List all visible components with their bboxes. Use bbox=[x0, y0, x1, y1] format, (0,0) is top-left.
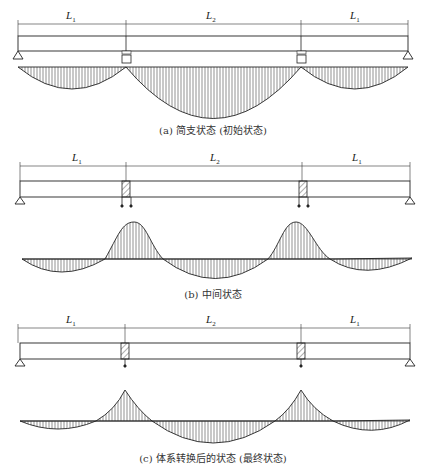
wet-joint-icon bbox=[299, 181, 307, 197]
span-label-l2: L2 bbox=[206, 313, 216, 328]
temporary-support-icon bbox=[122, 55, 131, 63]
pin-support-icon bbox=[13, 51, 23, 59]
panel-a bbox=[13, 20, 413, 119]
caption-b: (b) 中间状态 bbox=[0, 286, 426, 301]
pin-support-icon bbox=[15, 359, 25, 366]
panel-b bbox=[15, 162, 415, 279]
span-label-l1: L1 bbox=[66, 9, 76, 24]
caption-c: (c) 体系转换后的状态 (最终状态) bbox=[0, 450, 426, 465]
beam bbox=[18, 36, 408, 51]
pin-support-icon bbox=[405, 197, 415, 204]
wet-joint-icon bbox=[121, 343, 129, 359]
temporary-support-icon bbox=[297, 55, 306, 63]
bearing-icon bbox=[121, 197, 309, 207]
beam bbox=[20, 343, 410, 359]
caption-a: (a) 简支状态 (初始状态) bbox=[0, 122, 426, 137]
span-label-l2: L2 bbox=[210, 151, 220, 166]
pin-support-icon bbox=[405, 359, 415, 366]
span-label-l1: L1 bbox=[66, 313, 76, 328]
bearing-icon bbox=[124, 359, 302, 367]
span-label-l1: L1 bbox=[352, 151, 362, 166]
moment-diagram-c bbox=[20, 390, 410, 443]
span-label-l1: L1 bbox=[72, 151, 82, 166]
pin-support-icon bbox=[403, 51, 413, 59]
span-label-l1: L1 bbox=[350, 9, 360, 24]
beam bbox=[20, 181, 410, 197]
moment-diagram-a bbox=[18, 67, 408, 119]
pin-support-icon bbox=[15, 197, 25, 204]
wet-joint-icon bbox=[122, 181, 130, 197]
wet-joint-icon bbox=[297, 343, 305, 359]
panel-c bbox=[15, 324, 415, 443]
span-label-l2: L2 bbox=[206, 9, 216, 24]
span-label-l1: L1 bbox=[350, 313, 360, 328]
structural-diagram bbox=[0, 0, 426, 465]
moment-diagram-b bbox=[22, 222, 412, 279]
